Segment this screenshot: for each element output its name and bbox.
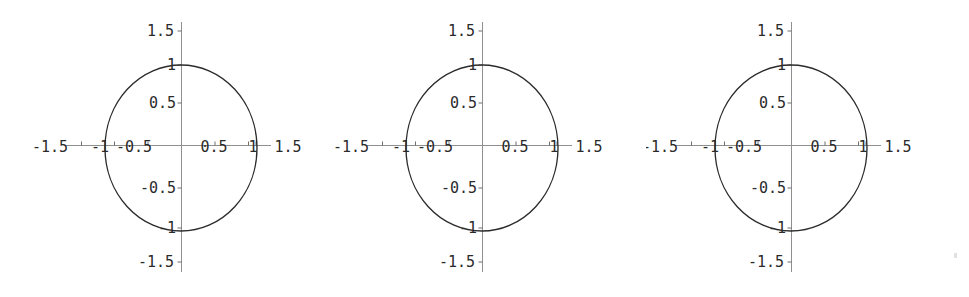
x-tick-label-neg15: -1.5: [32, 138, 68, 156]
x-tick-label-pos1: 1: [858, 138, 867, 156]
y-tick-label-pos05: 0.5: [759, 94, 786, 112]
x-tick-label-pos05: 0.5: [501, 138, 528, 156]
y-tick-label-pos05: 0.5: [450, 94, 477, 112]
x-tick-label-pos1: 1: [549, 138, 558, 156]
y-tick-label-pos15: 1.5: [448, 22, 475, 40]
figure-row: -1.5 -1 -0.5 0.5 1 1.5 1.5 1 0.5 -0.5 -1…: [0, 0, 969, 297]
y-tick-label-neg15: -1.5: [439, 253, 475, 271]
y-tick-label-neg05: -0.5: [441, 179, 477, 197]
x-tick-label-neg05: -0.5: [417, 138, 453, 156]
plot-canvas-3: -1.5 -1 -0.5 0.5 1 1.5 1.5 1 0.5 -0.5 -1…: [646, 0, 969, 297]
x-tick-label-neg1: -1: [91, 138, 109, 156]
y-tick-label-neg1: -1: [459, 219, 477, 237]
y-tick-label-pos15: 1.5: [757, 22, 784, 40]
x-tick-label-neg05: -0.5: [116, 138, 152, 156]
x-tick-label-neg05: -0.5: [726, 138, 762, 156]
y-tick-label-neg1: -1: [158, 219, 176, 237]
y-tick-label-neg1: -1: [768, 219, 786, 237]
scan-artifact-speck: [954, 253, 957, 258]
plot-panel-1: -1.5 -1 -0.5 0.5 1 1.5 1.5 1 0.5 -0.5 -1…: [0, 0, 323, 297]
x-tick-label-neg1: -1: [392, 138, 410, 156]
y-tick-label-neg15: -1.5: [138, 253, 174, 271]
x-tick-label-pos05: 0.5: [810, 138, 837, 156]
y-tick-label-pos1: 1: [777, 56, 786, 74]
y-tick-label-pos1: 1: [468, 56, 477, 74]
x-tick-label-neg15: -1.5: [333, 138, 369, 156]
y-tick-label-neg05: -0.5: [140, 179, 176, 197]
y-tick-label-pos05: 0.5: [149, 94, 176, 112]
x-tick-label-pos15: 1.5: [884, 138, 911, 156]
plot-panel-3: -1.5 -1 -0.5 0.5 1 1.5 1.5 1 0.5 -0.5 -1…: [646, 0, 969, 297]
x-tick-label-neg1: -1: [701, 138, 719, 156]
x-tick-label-pos1: 1: [248, 138, 257, 156]
x-tick-label-neg15: -1.5: [646, 138, 678, 156]
plot-canvas-1: -1.5 -1 -0.5 0.5 1 1.5 1.5 1 0.5 -0.5 -1…: [0, 0, 323, 297]
y-tick-label-neg15: -1.5: [748, 253, 784, 271]
plot-panel-2: -1.5 -1 -0.5 0.5 1 1.5 1.5 1 0.5 -0.5 -1…: [323, 0, 646, 297]
x-tick-label-pos15: 1.5: [274, 138, 301, 156]
x-tick-label-pos15: 1.5: [575, 138, 602, 156]
y-tick-label-pos15: 1.5: [147, 22, 174, 40]
x-tick-label-pos05: 0.5: [200, 138, 227, 156]
y-tick-label-pos1: 1: [167, 56, 176, 74]
y-tick-label-neg05: -0.5: [750, 179, 786, 197]
plot-canvas-2: -1.5 -1 -0.5 0.5 1 1.5 1.5 1 0.5 -0.5 -1…: [323, 0, 646, 297]
